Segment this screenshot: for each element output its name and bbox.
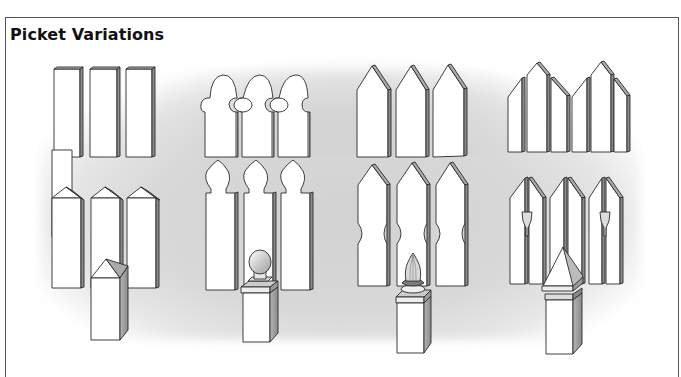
staggered-pointed-picket-icon	[508, 61, 630, 152]
pyramid-post-icon	[91, 259, 128, 340]
round-arch-picket-icon	[201, 75, 310, 157]
flat-top-picket-icon	[54, 67, 155, 157]
pointed-picket-icon	[357, 64, 467, 157]
